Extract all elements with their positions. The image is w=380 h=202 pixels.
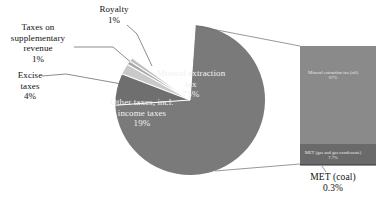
label-royalty: Royalty 1% [90,4,138,25]
bar-segment-met-coal [300,164,376,166]
label-other-taxes: Other taxes, incl. income taxes 19% [96,97,188,129]
label-excise-taxes: Excise taxes 4% [4,70,56,102]
bar-segment-met-oil [300,46,376,144]
label-taxes-on-supplementary-revenue: Taxes on supplementary revenue 1% [2,22,74,64]
leader-line-royalty [127,25,152,66]
pie-chart-figure: Taxes on supplementary revenue 1% Royalt… [0,0,380,202]
label-bar-segment-met-gas: MET (gas and gas condensate) 7.7% [290,150,376,161]
label-met-coal: MET (coal) 0.3% [288,172,378,194]
explosion-line-bottom [215,164,300,171]
label-bar-segment-met-oil: Mineral extraction tax (oil) 67% [290,70,376,81]
label-mineral-extraction-tax: Mineral extraction tax 75% [148,68,234,100]
